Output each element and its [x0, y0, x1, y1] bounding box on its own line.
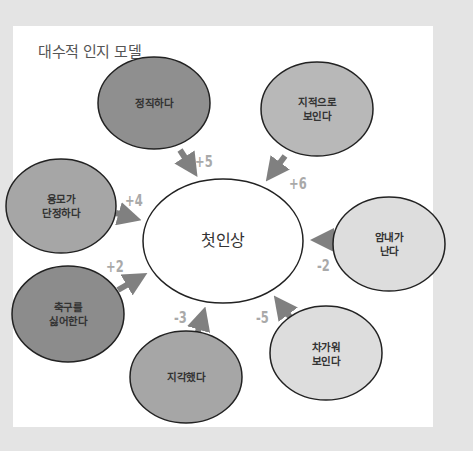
- arrow-cold: [281, 305, 290, 317]
- weight-honest: +5: [195, 152, 213, 171]
- weight-cold: -5: [256, 308, 269, 327]
- weight-neat: +4: [125, 191, 143, 210]
- node-cold-label: 차가워 보인다: [276, 339, 376, 369]
- node-neat-label: 용모가 단정하다: [11, 191, 111, 221]
- weight-smell: -2: [317, 256, 330, 275]
- arrow-neat: [116, 213, 130, 217]
- node-smell-label: 암내가 난다: [339, 229, 439, 259]
- node-late-label: 지각했다: [136, 362, 236, 392]
- node-honest-label: 정직하다: [104, 88, 204, 118]
- weight-late: -3: [174, 308, 187, 327]
- arrow-smart: [273, 156, 285, 172]
- weight-smart: +6: [289, 174, 307, 193]
- arrow-soccer: [118, 279, 137, 290]
- node-smart-label: 지적으로 보인다: [267, 94, 367, 124]
- node-soccer-label: 축구를 싫어한다: [18, 299, 118, 329]
- arrow-honest: [180, 150, 191, 167]
- weight-soccer: +2: [106, 257, 124, 276]
- center-node-label: 첫인상: [143, 221, 303, 261]
